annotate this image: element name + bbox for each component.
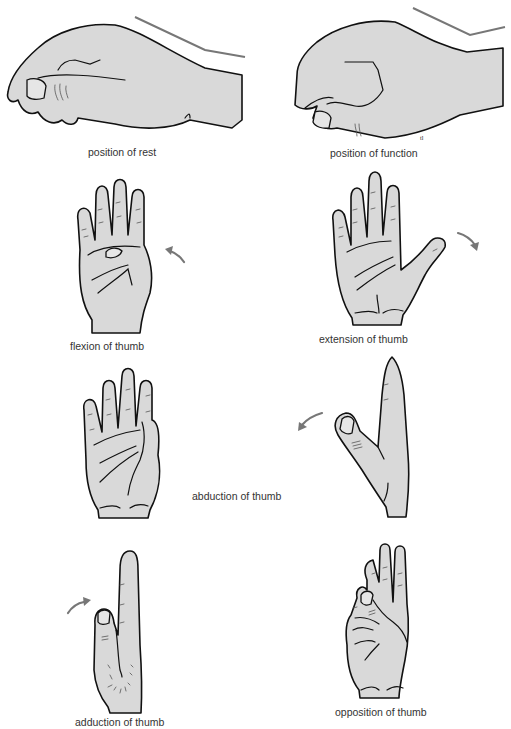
caption-flexion-of-thumb: flexion of thumb xyxy=(70,340,144,352)
flexion-arrow-icon xyxy=(0,165,255,350)
caption-opposition-of-thumb: opposition of thumb xyxy=(335,706,427,718)
caption-adduction-of-thumb: adduction of thumb xyxy=(75,716,164,728)
extension-arrow-icon xyxy=(255,165,511,350)
caption-extension-of-thumb: extension of thumb xyxy=(319,333,408,345)
hand-position-of-function: tl position of function xyxy=(255,0,511,150)
caption-position-of-rest: position of rest xyxy=(88,146,156,158)
adduction-arrow-icon xyxy=(0,545,255,729)
abduction-arrow-icon xyxy=(280,355,511,525)
hand-position-of-rest: position of rest xyxy=(0,0,255,150)
hand-opposition-of-thumb: opposition of thumb xyxy=(255,540,511,729)
hand-extension-of-thumb: extension of thumb xyxy=(255,165,511,350)
hand-adduction-of-thumb: adduction of thumb xyxy=(0,545,255,729)
artist-mark: tl xyxy=(420,135,424,141)
hand-rest-illustration xyxy=(0,0,255,150)
caption-position-of-function: position of function xyxy=(330,147,418,159)
hand-abduction-side-view xyxy=(280,355,511,525)
hand-opposition-illustration xyxy=(255,540,511,729)
hand-function-illustration: tl xyxy=(255,0,511,150)
hand-abduction-palm-view xyxy=(0,360,200,525)
hand-abduction-palm-illustration xyxy=(0,360,200,525)
caption-abduction-of-thumb: abduction of thumb xyxy=(192,490,281,502)
hand-flexion-of-thumb: flexion of thumb xyxy=(0,165,255,350)
